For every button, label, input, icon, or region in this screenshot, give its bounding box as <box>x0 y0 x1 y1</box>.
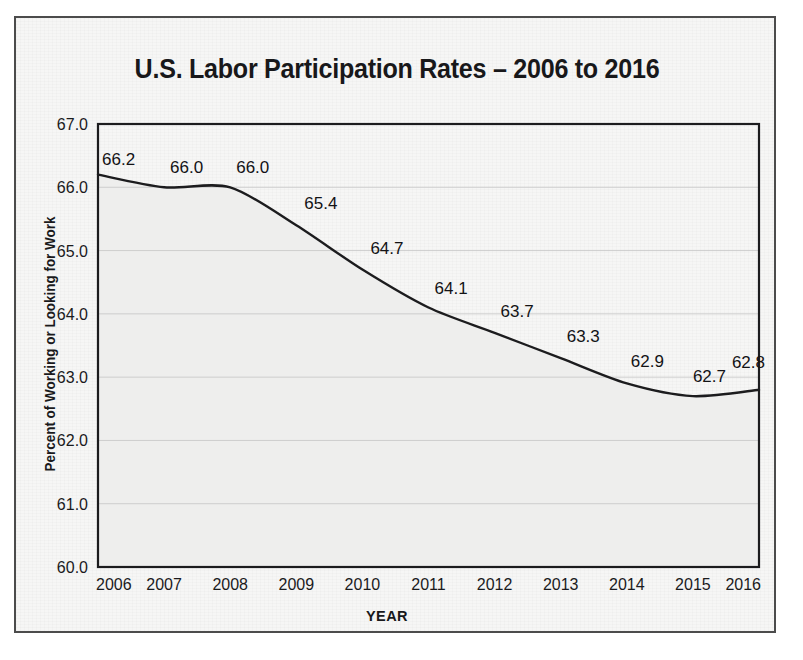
svg-text:65.4: 65.4 <box>304 194 337 213</box>
svg-text:64.1: 64.1 <box>435 279 468 298</box>
svg-text:63.3: 63.3 <box>567 327 600 346</box>
svg-text:62.7: 62.7 <box>693 367 726 386</box>
svg-text:2016: 2016 <box>725 576 761 593</box>
svg-text:2007: 2007 <box>146 576 182 593</box>
svg-text:62.8: 62.8 <box>732 353 765 372</box>
y-axis-tick-labels: 67.066.065.064.063.062.061.060.0 <box>57 116 88 576</box>
svg-text:64.7: 64.7 <box>370 239 403 258</box>
svg-text:64.0: 64.0 <box>57 306 88 323</box>
svg-text:2013: 2013 <box>543 576 579 593</box>
svg-text:2015: 2015 <box>675 576 711 593</box>
svg-text:67.0: 67.0 <box>57 116 88 133</box>
svg-text:61.0: 61.0 <box>57 496 88 513</box>
svg-text:63.0: 63.0 <box>57 369 88 386</box>
svg-text:62.0: 62.0 <box>57 432 88 449</box>
svg-text:62.9: 62.9 <box>631 352 664 371</box>
svg-text:2011: 2011 <box>411 576 446 593</box>
svg-text:2008: 2008 <box>212 576 248 593</box>
svg-text:2012: 2012 <box>477 576 513 593</box>
line-chart-plot: 67.066.065.064.063.062.061.060.0 2006200… <box>16 18 778 635</box>
svg-text:66.0: 66.0 <box>236 158 269 177</box>
svg-text:65.0: 65.0 <box>57 243 88 260</box>
svg-text:2014: 2014 <box>609 576 645 593</box>
svg-text:66.0: 66.0 <box>57 179 88 196</box>
x-axis-tick-labels: 2006200720082009201020112012201320142015… <box>96 576 761 593</box>
paper-frame: U.S. Labor Participation Rates – 2006 to… <box>14 16 776 633</box>
svg-text:63.7: 63.7 <box>501 302 534 321</box>
svg-text:2006: 2006 <box>96 576 132 593</box>
svg-text:60.0: 60.0 <box>57 559 88 576</box>
scanned-page: U.S. Labor Participation Rates – 2006 to… <box>0 0 803 660</box>
svg-text:2009: 2009 <box>279 576 315 593</box>
svg-text:66.2: 66.2 <box>102 150 135 169</box>
svg-text:66.0: 66.0 <box>170 158 203 177</box>
svg-text:2010: 2010 <box>345 576 381 593</box>
